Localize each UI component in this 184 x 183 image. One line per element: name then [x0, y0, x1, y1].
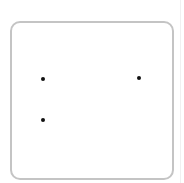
panel-divider — [180, 0, 181, 183]
pip-dot — [41, 77, 45, 81]
die-face[interactable] — [10, 21, 174, 180]
pip-dot — [41, 118, 45, 122]
pip-dot — [137, 76, 141, 80]
